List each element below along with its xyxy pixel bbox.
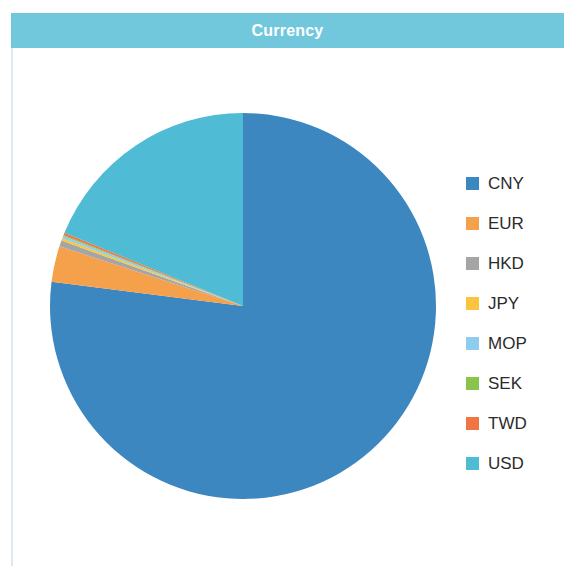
- legend-swatch-icon: [466, 297, 479, 310]
- chart-card: Currency CNYEURHKDJPYMOPSEKTWDUSD: [0, 0, 564, 566]
- legend-item[interactable]: CNY: [466, 163, 564, 203]
- legend-label: EUR: [488, 215, 524, 232]
- legend-swatch-icon: [466, 217, 479, 230]
- legend-swatch-icon: [466, 457, 479, 470]
- legend-item[interactable]: HKD: [466, 243, 564, 283]
- pie-slice-group: [50, 113, 436, 499]
- legend-label: SEK: [488, 375, 522, 392]
- legend-label: CNY: [488, 175, 524, 192]
- legend-swatch-icon: [466, 177, 479, 190]
- legend-item[interactable]: MOP: [466, 323, 564, 363]
- legend-label: TWD: [488, 415, 527, 432]
- legend-swatch-icon: [466, 417, 479, 430]
- legend-label: USD: [488, 455, 524, 472]
- legend-swatch-icon: [466, 377, 479, 390]
- legend-item[interactable]: EUR: [466, 203, 564, 243]
- legend-label: HKD: [488, 255, 524, 272]
- page-title: Currency: [252, 22, 324, 40]
- pie-chart: [48, 111, 438, 501]
- chart-legend: CNYEURHKDJPYMOPSEKTWDUSD: [466, 163, 564, 483]
- legend-swatch-icon: [466, 337, 479, 350]
- legend-swatch-icon: [466, 257, 479, 270]
- plot-area: CNYEURHKDJPYMOPSEKTWDUSD: [14, 49, 564, 564]
- legend-item[interactable]: SEK: [466, 363, 564, 403]
- chart-title-bar: Currency: [11, 13, 564, 48]
- legend-label: JPY: [488, 295, 519, 312]
- legend-item[interactable]: JPY: [466, 283, 564, 323]
- legend-item[interactable]: TWD: [466, 403, 564, 443]
- legend-item[interactable]: USD: [466, 443, 564, 483]
- card-left-border: [11, 47, 13, 566]
- legend-label: MOP: [488, 335, 527, 352]
